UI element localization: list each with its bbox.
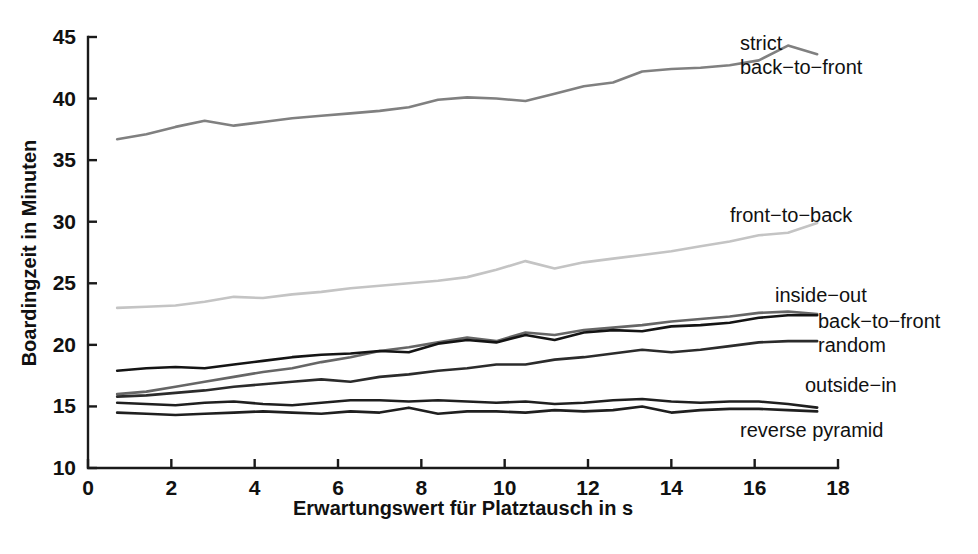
label-front-to-back: front−to−back — [730, 204, 853, 226]
x-tick-label: 6 — [332, 476, 344, 499]
x-tick-label: 10 — [493, 476, 516, 499]
chart-background — [0, 0, 978, 554]
label-reverse-pyramid: reverse pyramid — [740, 419, 883, 441]
label-back-to-front: back−to−front — [818, 310, 941, 332]
x-tick-label: 18 — [826, 476, 850, 499]
label-random: random — [818, 334, 886, 356]
x-tick-label: 0 — [82, 476, 94, 499]
x-tick-label: 12 — [576, 476, 599, 499]
y-tick-label: 10 — [53, 456, 76, 479]
label-strict-back-to-front: back−to−front — [740, 56, 863, 78]
label-inside-out: inside−out — [775, 284, 867, 306]
chart-figure: 1015202530354045024681012141618 strictba… — [0, 0, 978, 554]
x-tick-label: 2 — [165, 476, 177, 499]
x-axis-title: Erwartungswert für Platztausch in s — [293, 497, 633, 519]
x-tick-label: 8 — [415, 476, 427, 499]
label-strict-back-to-front: strict — [740, 32, 783, 54]
y-axis-title: Boardingzeit in Minuten — [18, 140, 40, 367]
x-tick-label: 14 — [660, 476, 684, 499]
line-chart-canvas: 1015202530354045024681012141618 strictba… — [0, 0, 978, 554]
y-tick-label: 35 — [53, 148, 77, 171]
x-tick-label: 16 — [743, 476, 766, 499]
y-tick-label: 15 — [53, 394, 77, 417]
y-tick-label: 30 — [53, 210, 76, 233]
label-outside-in: outside−in — [805, 374, 897, 396]
y-tick-label: 25 — [53, 271, 77, 294]
y-tick-label: 40 — [53, 87, 76, 110]
x-tick-label: 4 — [249, 476, 261, 499]
y-tick-label: 20 — [53, 333, 76, 356]
y-tick-label: 45 — [53, 25, 77, 48]
